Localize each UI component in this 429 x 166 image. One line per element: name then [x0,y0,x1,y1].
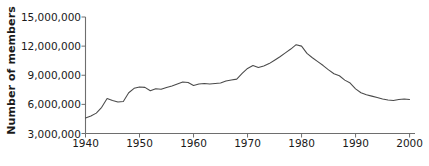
axes-group [86,17,416,134]
x-axis-tick-marks [86,134,410,138]
chart-container: Number of members 3,000,0006,000,0009,00… [0,0,429,166]
plot-area [0,0,429,166]
y-axis-tick-marks [82,17,86,134]
data-series-line [86,45,410,118]
